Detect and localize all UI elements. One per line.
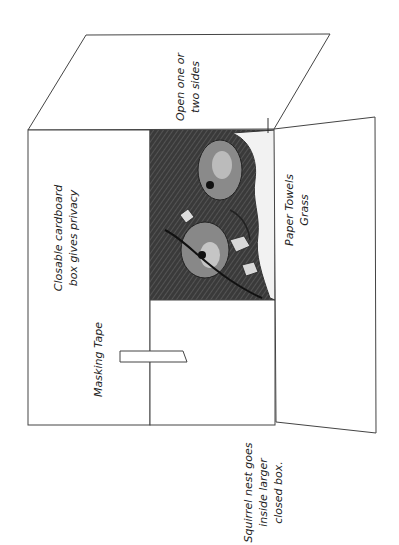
top-flap-label: Open one or two sides xyxy=(173,42,203,132)
caption: Squirrel nest goes inside larger closed … xyxy=(241,438,286,545)
masking-tape-label: Masking Tape xyxy=(91,320,106,400)
front-face xyxy=(28,130,150,425)
masking-tape xyxy=(120,351,187,362)
right-flap-label: Paper Towels Grass xyxy=(282,165,312,255)
squirrel-nest-sketch xyxy=(150,130,275,300)
front-face-label: Closable cardboard box gives privacy xyxy=(51,178,81,298)
